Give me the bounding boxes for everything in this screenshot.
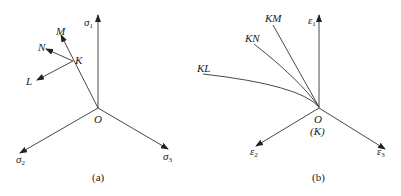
curve-KL-label: KL (196, 62, 210, 74)
epsilon1-label: ε1 (308, 14, 316, 28)
epsilon3-label: ε3 (377, 145, 385, 159)
path-N-label: N (37, 41, 46, 53)
epsilon3-axis (319, 108, 385, 149)
origin-K-label: (K) (310, 125, 325, 138)
path-KL (37, 61, 73, 80)
sigma1-label: σ1 (84, 16, 93, 30)
origin-label-b: O (314, 113, 322, 125)
epsilon2-label: ε2 (250, 145, 258, 159)
path-L-label: L (25, 75, 32, 87)
origin-label-a: O (94, 113, 102, 125)
curve-KN-label: KN (244, 32, 260, 44)
sigma2-axis (20, 108, 98, 153)
caption-b: (b) (312, 171, 325, 184)
point-K-label: K (74, 54, 83, 66)
figure-a: σ1 σ2 σ3 O K M N L (a) (16, 15, 172, 184)
path-KM (61, 35, 98, 108)
curve-KN (254, 44, 319, 107)
diagram-canvas: σ1 σ2 σ3 O K M N L (a) ε1 ε2 ε3 O (K) KM… (0, 0, 401, 196)
path-M-label: M (55, 25, 66, 37)
caption-a: (a) (92, 171, 105, 184)
curve-KL (203, 74, 319, 107)
sigma3-label: σ3 (163, 150, 172, 164)
sigma2-label: σ2 (16, 153, 25, 167)
figure-b: ε1 ε2 ε3 O (K) KM KN KL (b) (196, 12, 385, 184)
sigma3-axis (98, 108, 168, 149)
curve-KM-label: KM (264, 12, 282, 24)
